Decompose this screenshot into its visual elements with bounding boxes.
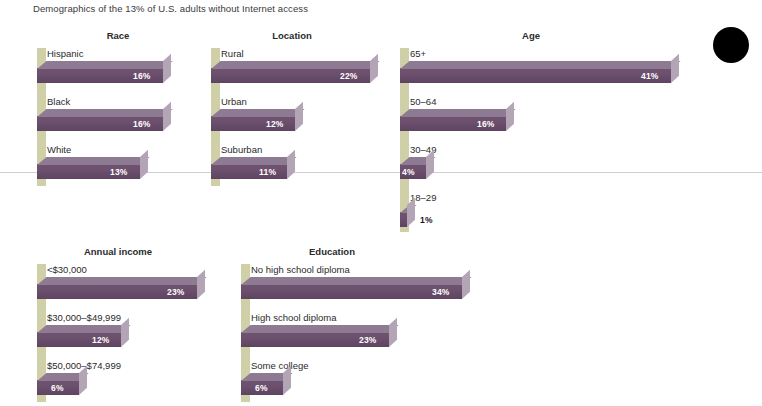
category-label: Some college xyxy=(251,360,309,371)
category-label: 65+ xyxy=(410,48,426,59)
panel-title-annual-income: Annual income xyxy=(33,246,203,257)
bar-value-label: 13% xyxy=(110,167,128,177)
bar-value-label: 34% xyxy=(432,287,450,297)
bar-value-label: 6% xyxy=(51,383,64,393)
panel-age: Age 65+ 41% 50–64 16% 30–49 xyxy=(396,30,716,235)
bar-value-label: 23% xyxy=(359,335,377,345)
category-label: Black xyxy=(47,96,70,107)
panel-title-age: Age xyxy=(396,30,666,41)
panel-education: Education No high school diploma 34% Hig… xyxy=(237,246,427,406)
category-label: White xyxy=(47,144,71,155)
bar-value-label: 4% xyxy=(402,167,415,177)
bar-value-label: 16% xyxy=(133,71,151,81)
category-label: Rural xyxy=(221,48,244,59)
bar-value-label: 1% xyxy=(420,215,433,225)
panel-race: Race Hispanic 16% Black 16% White xyxy=(33,30,203,190)
bar-value-label: 12% xyxy=(92,335,110,345)
category-label: Suburban xyxy=(221,144,262,155)
bar-value-label: 41% xyxy=(641,71,659,81)
panel-title-race: Race xyxy=(33,30,203,41)
category-label: <$30,000 xyxy=(47,264,87,275)
category-label: 50–64 xyxy=(410,96,436,107)
bar-value-label: 11% xyxy=(259,167,276,177)
bar-value-label: 16% xyxy=(133,119,151,129)
category-label: High school diploma xyxy=(251,312,337,323)
category-label: No high school diploma xyxy=(251,264,350,275)
bar-value-label: 16% xyxy=(477,119,495,129)
panel-title-education: Education xyxy=(237,246,427,257)
category-label: Hispanic xyxy=(47,48,83,59)
bar-value-label: 22% xyxy=(340,71,358,81)
panel-annual-income: Annual income <$30,000 23% $30,000–$49,9… xyxy=(33,246,203,406)
black-dot-marker xyxy=(713,27,749,63)
panel-title-location: Location xyxy=(207,30,377,41)
bar-value-label: 12% xyxy=(266,119,284,129)
category-label: $30,000–$49,999 xyxy=(47,312,121,323)
panel-location: Location Rural 22% Urban 12% Suburban xyxy=(207,30,377,190)
category-label: Urban xyxy=(221,96,247,107)
bar-value-label: 23% xyxy=(167,287,185,297)
figure-title: Demographics of the 13% of U.S. adults w… xyxy=(33,3,308,14)
bar-value-label: 6% xyxy=(255,383,268,393)
